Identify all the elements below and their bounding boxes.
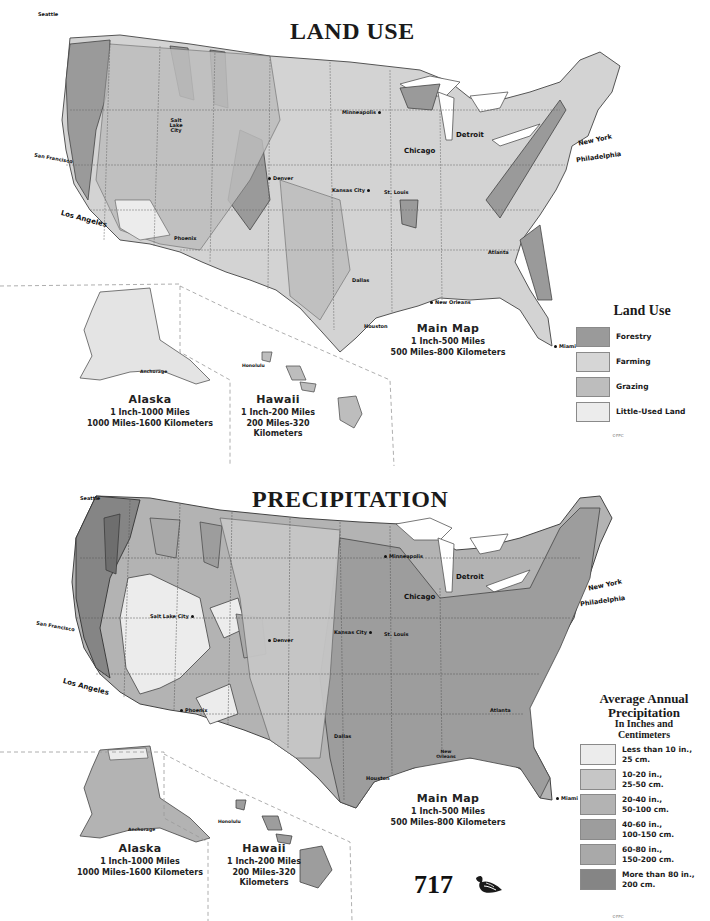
main-map-scale: Main Map 1 Inch-500 Miles 500 Miles-800 … (378, 792, 518, 828)
city-denver: Denver (266, 638, 293, 643)
legend-item-10-20: 10-20 in., 25-50 cm. (580, 769, 708, 790)
city-houston: Houston (366, 776, 390, 781)
copyright-mark: ©FPC (612, 914, 624, 919)
city-anchorage: Anchorage (128, 828, 155, 833)
city-salt-lake-city: Salt Lake City (150, 614, 196, 619)
copyright-mark: ©FPC (612, 433, 624, 438)
legend-item-grazing: Grazing (576, 377, 706, 397)
city-miami: Miami (552, 344, 576, 349)
city-dallas: Dallas (352, 278, 369, 283)
swatch-more-than-80 (580, 869, 616, 890)
legend-item-farming: Farming (576, 352, 706, 372)
city-seattle: Seattle (38, 12, 58, 17)
legend-item-20-40: 20-40 in., 50-100 cm. (580, 794, 708, 815)
swatch-less-than-10 (580, 744, 616, 765)
alaska-scale: Alaska 1 Inch-1000 Miles 1000 Miles-1600… (80, 393, 220, 429)
swatch-little-used-land (576, 402, 610, 422)
land-use-panel: LAND USE (0, 0, 710, 470)
city-new-orleans: New Orleans (434, 750, 458, 759)
city-denver: Denver (266, 176, 293, 181)
swatch-farming (576, 352, 610, 372)
city-dallas: Dallas (334, 734, 351, 739)
legend-item-little-used-land: Little-Used Land (576, 402, 706, 422)
alaska-scale: Alaska 1 Inch-1000 Miles 1000 Miles-1600… (70, 842, 210, 878)
feather-ornament-icon (474, 874, 504, 898)
main-map-scale: Main Map 1 Inch-500 Miles 500 Miles-800 … (378, 322, 518, 358)
city-detroit: Detroit (456, 574, 484, 581)
hawaii-scale: Hawaii 1 Inch-200 Miles 200 Miles-320 Ki… (238, 393, 318, 440)
precipitation-legend: Average Annual Precipitation In Inches a… (580, 692, 708, 890)
city-salt-lake-city: Salt Lake City (164, 118, 188, 133)
city-seattle: Seattle (80, 496, 100, 501)
city-honolulu: Honolulu (242, 364, 265, 369)
swatch-forestry (576, 327, 610, 347)
legend-title: Land Use (576, 304, 706, 319)
city-phoenix: Phoenix (174, 236, 197, 241)
city-minneapolis: Minneapolis (342, 110, 383, 115)
city-minneapolis: Minneapolis (382, 554, 423, 559)
city-phoenix: Phoenix (178, 708, 208, 713)
city-chicago: Chicago (404, 594, 435, 601)
city-honolulu: Honolulu (218, 820, 241, 825)
city-kansas-city: Kansas City (332, 188, 372, 193)
page-number: 717 (414, 870, 453, 900)
swatch-40-60 (580, 819, 616, 840)
legend-subtitle: In Inches and Centimeters (580, 719, 708, 740)
swatch-60-80 (580, 844, 616, 865)
swatch-grazing (576, 377, 610, 397)
city-kansas-city: Kansas City (334, 630, 374, 635)
swatch-10-20 (580, 769, 616, 790)
legend-item-less-than-10: Less than 10 in., 25 cm. (580, 744, 708, 765)
land-use-legend: Land Use Forestry Farming Grazing Little… (576, 304, 706, 422)
legend-item-more-than-80: More than 80 in., 200 cm. (580, 869, 708, 890)
hawaii-scale: Hawaii 1 Inch-200 Miles 200 Miles-320 Ki… (224, 842, 304, 889)
city-miami: Miami (554, 796, 578, 801)
city-anchorage: Anchorage (140, 370, 167, 375)
city-detroit: Detroit (456, 132, 484, 139)
legend-item-40-60: 40-60 in., 100-150 cm. (580, 819, 708, 840)
legend-item-60-80: 60-80 in., 150-200 cm. (580, 844, 708, 865)
city-atlanta: Atlanta (490, 708, 511, 713)
city-new-orleans: New Orleans (428, 300, 471, 305)
city-chicago: Chicago (404, 148, 435, 155)
precipitation-panel: PRECIPITATION (0, 478, 710, 921)
city-atlanta: Atlanta (488, 250, 509, 255)
city-st-louis: St. Louis (384, 632, 409, 637)
legend-title: Average Annual Precipitation (580, 692, 708, 719)
swatch-20-40 (580, 794, 616, 815)
city-st-louis: St. Louis (384, 190, 409, 195)
legend-item-forestry: Forestry (576, 327, 706, 347)
